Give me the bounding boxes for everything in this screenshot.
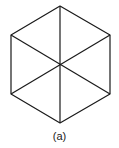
hexagon-diagram [0,0,119,148]
figure-caption: (a) [0,130,119,142]
